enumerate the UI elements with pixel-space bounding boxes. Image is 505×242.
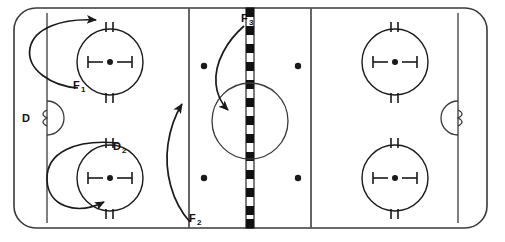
label-d2-sub: 2 (122, 146, 127, 155)
neutral-dot-upper-right (295, 63, 301, 69)
neutral-dot-lower-right (295, 175, 301, 181)
label-d: D (22, 112, 30, 124)
label-f3-sub: 3 (249, 18, 254, 27)
neutral-dot-upper-left (201, 63, 207, 69)
neutral-dot-lower-left (201, 175, 207, 181)
center-line (246, 8, 254, 228)
label-f2-sub: 2 (197, 218, 202, 227)
hockey-rink-diagram: D F 1 D 2 F 2 F 3 (0, 0, 505, 242)
label-f3-base: F (241, 12, 248, 24)
label-d2-base: D (113, 140, 121, 152)
label-f1-sub: 1 (81, 85, 86, 94)
label-f2-base: F (189, 212, 196, 224)
label-d-base: D (22, 112, 30, 124)
label-f1-base: F (73, 79, 80, 91)
rink-svg: D F 1 D 2 F 2 F 3 (0, 0, 505, 242)
